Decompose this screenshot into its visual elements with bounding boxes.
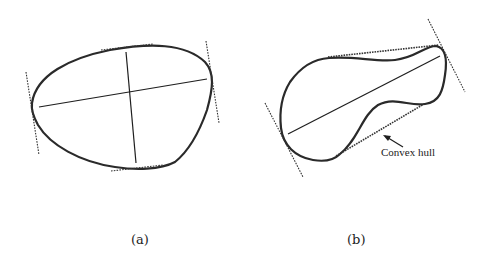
tangent-a-left bbox=[26, 72, 39, 155]
convex-hull-label: Convex hull bbox=[381, 146, 435, 158]
tangent-b-right bbox=[428, 19, 465, 92]
arrowhead-icon bbox=[383, 135, 391, 141]
figure-canvas bbox=[0, 0, 486, 261]
minor-axis-a bbox=[126, 52, 136, 163]
shape-b-outline bbox=[280, 46, 446, 161]
panel-a bbox=[26, 41, 219, 171]
panel-a-caption: (a) bbox=[131, 232, 149, 247]
shape-a-outline bbox=[32, 46, 212, 169]
major-axis-a bbox=[39, 79, 207, 107]
panel-b-caption: (b) bbox=[347, 232, 365, 247]
